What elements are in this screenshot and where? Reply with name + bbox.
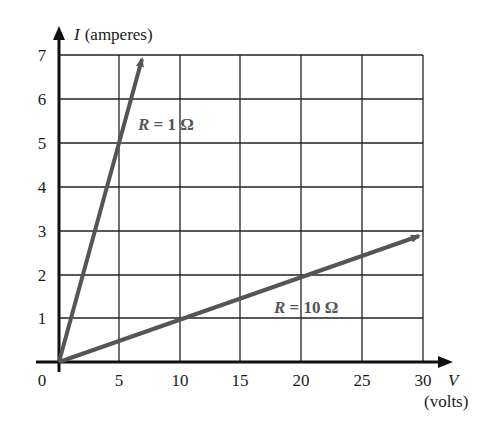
series-r1-line	[59, 59, 142, 362]
svg-text:25: 25	[354, 371, 371, 390]
svg-text:5: 5	[115, 371, 124, 390]
svg-text:5: 5	[38, 134, 47, 153]
series-r10-line	[59, 236, 419, 362]
svg-text:1: 1	[38, 309, 47, 328]
svg-text:4: 4	[38, 178, 47, 197]
grid	[59, 55, 423, 362]
iv-chart: 1 2 3 4 5 6 7 0 5 10 15 20 25 30 I(amper…	[0, 0, 494, 439]
svg-text:0: 0	[38, 371, 47, 390]
svg-text:10: 10	[172, 371, 189, 390]
x-axis-arrow-icon	[438, 356, 453, 368]
annotation-r10: R = 10 Ω	[273, 298, 338, 317]
axes	[36, 26, 453, 372]
svg-text:15: 15	[232, 371, 249, 390]
svg-text:3: 3	[38, 222, 47, 241]
svg-text:30: 30	[415, 371, 432, 390]
x-tick-labels: 0 5 10 15 20 25 30	[38, 371, 432, 390]
svg-text:R = 10 Ω: R = 10 Ω	[273, 298, 338, 317]
svg-text:R = 1 Ω: R = 1 Ω	[137, 115, 194, 134]
svg-text:7: 7	[38, 46, 47, 65]
y-axis-arrow-icon	[53, 26, 65, 40]
svg-text:(volts): (volts)	[424, 392, 468, 411]
svg-text:20: 20	[293, 371, 310, 390]
y-tick-labels: 1 2 3 4 5 6 7	[38, 46, 47, 328]
svg-text:V: V	[448, 371, 461, 390]
svg-text:I(amperes): I(amperes)	[73, 25, 153, 44]
svg-text:2: 2	[38, 266, 47, 285]
annotation-r1: R = 1 Ω	[137, 115, 194, 134]
y-axis-title: I(amperes)	[73, 25, 153, 44]
svg-text:6: 6	[38, 90, 47, 109]
